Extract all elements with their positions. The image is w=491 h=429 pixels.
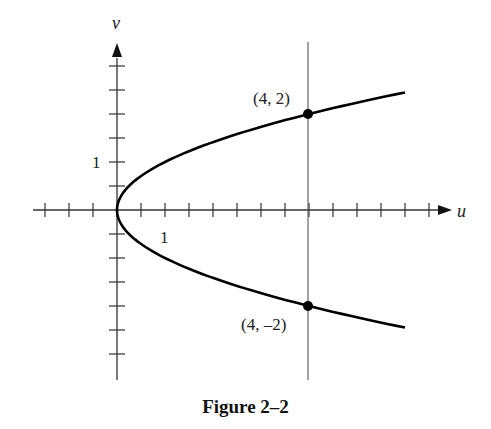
parabola-figure: u v 1 1 (4, 2) (4, –2) xyxy=(0,0,491,429)
point-label-4-neg2: (4, –2) xyxy=(241,315,286,334)
v-axis-arrow-icon xyxy=(112,43,122,57)
point-label-4-2: (4, 2) xyxy=(253,89,290,108)
u-tick-label-1: 1 xyxy=(160,228,169,247)
u-axis-arrow-icon xyxy=(438,205,452,215)
point-4-2 xyxy=(303,109,313,119)
v-axis-label: v xyxy=(112,13,120,33)
point-4-neg2 xyxy=(303,301,313,311)
v-tick-label-1: 1 xyxy=(92,153,101,172)
figure-caption: Figure 2–2 xyxy=(0,396,491,418)
u-axis-label: u xyxy=(457,201,466,221)
